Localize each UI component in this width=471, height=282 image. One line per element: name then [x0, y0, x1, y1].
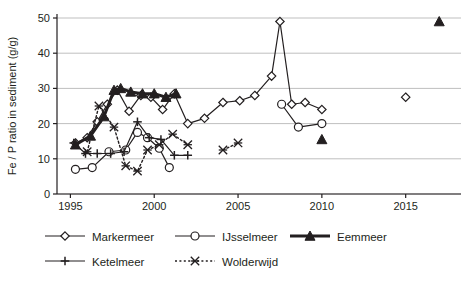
- x-tick-label: 2010: [310, 200, 334, 212]
- x-tick-label: 2000: [142, 200, 166, 212]
- data-point-open-circle: [191, 232, 199, 240]
- y-tick-label: 20: [38, 118, 50, 130]
- data-point-open-circle: [105, 148, 113, 156]
- y-axis-title: Fe / P ratio in sediment (g/g): [6, 37, 18, 176]
- legend-label: Eemmeer: [337, 231, 387, 243]
- y-tick-label: 30: [38, 82, 50, 94]
- legend-label: Markermeer: [92, 231, 154, 243]
- data-point-open-circle: [165, 164, 173, 172]
- data-point-open-circle: [133, 128, 141, 136]
- y-tick-label: 50: [38, 12, 50, 24]
- chart-figure: 01020304050 19952000200520102015 Fe / P …: [0, 0, 471, 282]
- legend-label: Ketelmeer: [92, 256, 145, 268]
- data-point-open-circle: [278, 100, 286, 108]
- y-tick-label: 40: [38, 47, 50, 59]
- y-tick-label: 10: [38, 153, 50, 165]
- fe-p-ratio-line-chart: 01020304050 19952000200520102015 Fe / P …: [0, 0, 471, 282]
- x-tick-label: 2015: [393, 200, 417, 212]
- y-tick-label: 0: [44, 188, 50, 200]
- data-point-open-circle: [294, 123, 302, 131]
- data-point-open-circle: [71, 165, 79, 173]
- legend-label: Wolderwijd: [222, 256, 278, 268]
- legend-label: IJsselmeer: [222, 231, 278, 243]
- data-point-open-circle: [88, 164, 96, 172]
- y-axis-title-text: Fe / P ratio in sediment (g/g): [6, 37, 18, 176]
- x-tick-label: 1995: [58, 200, 82, 212]
- data-point-open-circle: [318, 120, 326, 128]
- x-tick-label: 2005: [226, 200, 250, 212]
